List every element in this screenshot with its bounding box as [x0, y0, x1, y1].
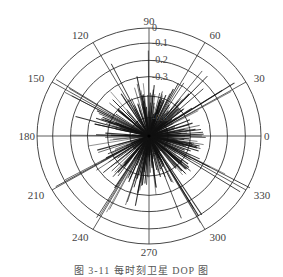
data-spoke — [111, 135, 149, 136]
radial-label: 0 — [152, 22, 157, 33]
angle-label: 150 — [28, 72, 45, 84]
angle-label: 330 — [254, 189, 271, 201]
radial-label: -0.2 — [152, 54, 168, 65]
polar-chart: 03060901201501802102402703003300-0.1-0.2… — [0, 0, 283, 262]
radial-label: -0.3 — [152, 71, 168, 82]
center-dot — [147, 134, 150, 137]
angle-label: 300 — [210, 231, 227, 243]
angle-label: 120 — [72, 29, 89, 41]
angle-label: 240 — [72, 231, 89, 243]
angle-label: 60 — [210, 29, 222, 41]
angle-label: 0 — [264, 130, 270, 142]
angle-label: 30 — [254, 72, 265, 84]
radial-label: -0.6 — [152, 112, 168, 123]
angle-label: 210 — [28, 189, 45, 201]
radial-label: -0.1 — [152, 37, 168, 48]
angle-label: 270 — [141, 246, 158, 258]
figure-caption: 图 3-11 每时刻卫星 DOP 图 — [0, 262, 283, 277]
angle-label: 180 — [19, 130, 36, 142]
data-spoke — [56, 80, 149, 136]
